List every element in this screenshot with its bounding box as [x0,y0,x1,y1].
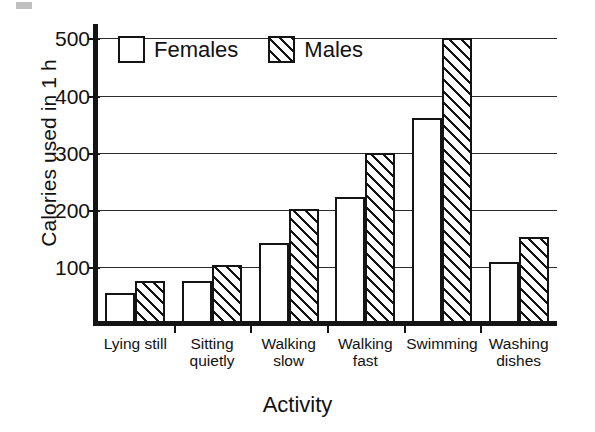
bar-males-sitting-quietly [212,265,242,324]
chart-legend: FemalesMales [118,36,363,63]
y-axis-tick-label: 500 [20,28,90,49]
bar-females-sitting-quietly [182,281,212,324]
bar-females-swimming [412,118,442,324]
legend-entry-females: Females [118,36,238,63]
gridline [97,96,557,97]
x-axis-tick-mark [327,326,329,333]
y-axis-tick-label: 200 [20,200,90,221]
bar-females-washing-dishes [489,262,519,324]
bar-males-walking-fast [365,153,395,324]
legend-entry-males: Males [268,36,363,63]
gridline [97,210,557,211]
scan-artifact [16,2,32,9]
y-axis-tick-label: 400 [20,86,90,107]
y-axis-line [93,24,98,326]
x-axis-tick-mark [174,326,176,333]
legend-swatch-females [118,36,145,63]
bar-males-lying-still [135,281,165,324]
x-axis-tick-mark [404,326,406,333]
bar-females-lying-still [105,293,135,324]
y-axis-tick-label: 300 [20,143,90,164]
bar-males-swimming [442,38,472,324]
x-axis-tick-mark [250,326,252,333]
x-axis-title: Activity [0,392,595,418]
legend-swatch-males [268,36,295,63]
bar-females-walking-fast [335,197,365,324]
x-axis-category-label: Washing dishes [472,336,565,369]
gridline [97,153,557,154]
legend-label: Females [154,39,238,61]
y-axis-tick-label: 100 [20,257,90,278]
bar-males-washing-dishes [519,237,549,324]
x-axis-tick-mark [480,326,482,333]
plot-area [97,27,557,324]
bar-females-walking-slow [259,243,289,324]
x-axis-line [95,321,557,326]
legend-label: Males [304,39,363,61]
bar-males-walking-slow [289,209,319,324]
bar-chart-figure: Calories used in 1 h 100200300400500 Fem… [0,0,595,432]
